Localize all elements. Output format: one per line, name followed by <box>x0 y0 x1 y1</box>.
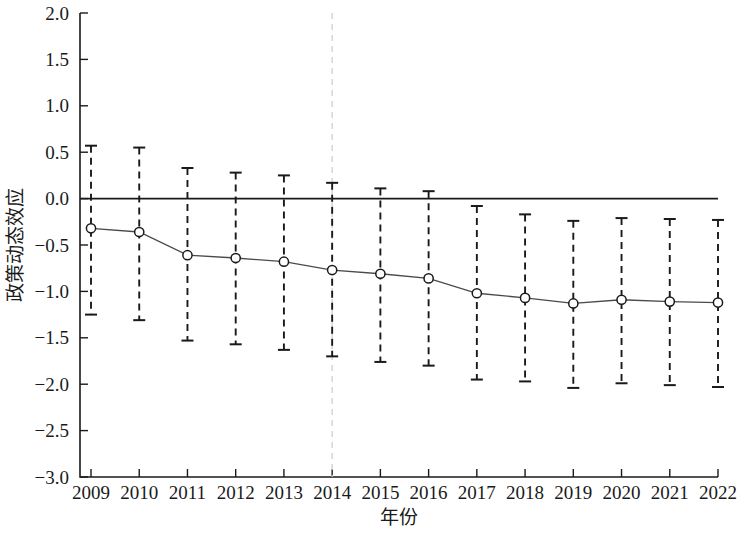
series-markers <box>86 224 722 308</box>
x-axis-tick-labels: 2009201020112012201320142015201620172018… <box>72 482 737 503</box>
x-axis-tick-label: 2011 <box>169 482 206 503</box>
y-axis-tick-label: −2.5 <box>35 420 69 441</box>
x-axis-tick-label: 2016 <box>410 482 448 503</box>
series-marker <box>424 274 433 283</box>
event-study-chart: 2.01.51.00.50.0−0.5−1.0−1.5−2.0−2.5−3.0 … <box>0 0 742 537</box>
x-axis-tick-label: 2010 <box>120 482 158 503</box>
series-marker <box>376 269 385 278</box>
x-axis-tick-label: 2018 <box>506 482 544 503</box>
y-axis-tick-label: 1.0 <box>45 95 69 116</box>
series-marker <box>231 253 240 262</box>
y-axis-title: 政策动态效应 <box>5 188 26 302</box>
y-axis-tick-label: 0.0 <box>45 188 69 209</box>
series-marker <box>279 257 288 266</box>
y-axis-tick-label: −1.0 <box>35 281 69 302</box>
series-marker <box>328 265 337 274</box>
x-axis-tick-label: 2015 <box>361 482 399 503</box>
x-axis-tick-label: 2012 <box>217 482 255 503</box>
y-axis-tick-label: 1.5 <box>45 49 69 70</box>
series-marker <box>135 227 144 236</box>
y-axis-tick-label: −3.0 <box>35 467 69 488</box>
y-axis-tick-label: −2.0 <box>35 374 69 395</box>
series-line-policy-effect <box>91 228 718 303</box>
series-marker <box>86 224 95 233</box>
y-axis-tick-label: 2.0 <box>45 3 69 24</box>
x-axis-tick-label: 2021 <box>651 482 689 503</box>
y-axis-tick-labels: 2.01.51.00.50.0−0.5−1.0−1.5−2.0−2.5−3.0 <box>35 3 69 488</box>
chart-canvas: 2.01.51.00.50.0−0.5−1.0−1.5−2.0−2.5−3.0 … <box>0 0 742 537</box>
x-axis-tick-label: 2020 <box>603 482 641 503</box>
y-axis-tick-label: −1.5 <box>35 327 69 348</box>
series-marker <box>472 289 481 298</box>
error-bars <box>85 146 724 388</box>
y-axis-tick-label: 0.5 <box>45 142 69 163</box>
series-marker <box>569 299 578 308</box>
x-axis-tick-label: 2019 <box>554 482 592 503</box>
series-marker <box>520 293 529 302</box>
x-axis-tick-label: 2009 <box>72 482 110 503</box>
series-marker <box>713 298 722 307</box>
x-axis-title: 年份 <box>380 507 418 528</box>
x-axis-tick-label: 2022 <box>699 482 737 503</box>
series-marker <box>617 295 626 304</box>
x-axis-tick-label: 2013 <box>265 482 303 503</box>
x-axis-tick-label: 2017 <box>458 482 496 503</box>
y-axis-tick-label: −0.5 <box>35 235 69 256</box>
series-marker <box>665 297 674 306</box>
x-axis-tick-label: 2014 <box>313 482 352 503</box>
series-marker <box>183 251 192 260</box>
